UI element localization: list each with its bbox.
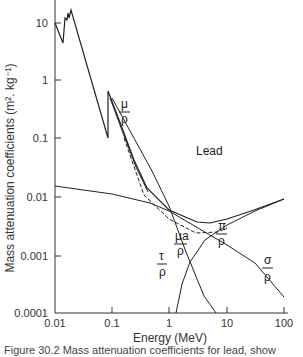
svg-text:ρ: ρ	[159, 265, 166, 279]
svg-text:π: π	[218, 219, 226, 233]
y-axis-label: Mass attenuation coefficients (m². kg⁻¹)	[3, 63, 17, 272]
series-sigma	[55, 186, 284, 297]
svg-text:0.1: 0.1	[33, 132, 48, 144]
y-ticks: 10 1 0.1 0.01 0.001 0.0001	[14, 17, 61, 319]
svg-text:0.1: 0.1	[104, 317, 119, 329]
svg-text:1: 1	[166, 317, 172, 329]
svg-text:10: 10	[221, 317, 233, 329]
svg-text:0.0001: 0.0001	[14, 307, 48, 319]
svg-text:ρ: ρ	[177, 244, 184, 258]
svg-text:0.01: 0.01	[27, 191, 48, 203]
svg-text:100: 100	[275, 317, 293, 329]
svg-text:ρ: ρ	[264, 270, 271, 284]
svg-text:0.001: 0.001	[20, 250, 48, 262]
svg-text:σ: σ	[264, 253, 272, 267]
svg-text:μa: μa	[175, 229, 189, 243]
svg-text:ρ: ρ	[218, 234, 225, 248]
x-axis-label: Energy (MeV)	[133, 331, 207, 345]
svg-text:ρ: ρ	[121, 112, 128, 126]
attenuation-chart: 10 1 0.1 0.01 0.001 0.0001 0.01 0.1 1 10…	[0, 0, 303, 357]
svg-text:0.01: 0.01	[44, 317, 65, 329]
svg-text:10: 10	[36, 17, 48, 29]
svg-text:1: 1	[42, 74, 48, 86]
svg-text:μ: μ	[121, 97, 128, 111]
svg-text:τ: τ	[159, 249, 164, 263]
chart-title: Lead	[196, 144, 223, 158]
x-ticks: 0.01 0.1 1 10 100	[44, 307, 293, 329]
figure-caption: Figure 30.2 Mass attenuation coefficient…	[4, 344, 276, 356]
